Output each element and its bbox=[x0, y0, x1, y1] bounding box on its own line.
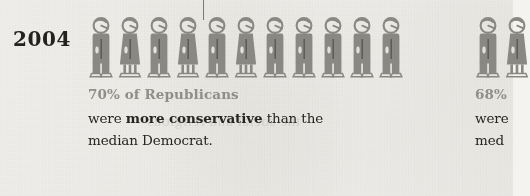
stat-percentage-label: 70% of Republicans bbox=[88, 86, 323, 102]
pictogram-figure-female bbox=[117, 16, 143, 80]
pictogram-figure-female bbox=[233, 16, 259, 80]
desc-suffix: than the bbox=[263, 110, 324, 126]
pictogram-figure-male bbox=[349, 16, 375, 80]
pictogram-figure-male bbox=[204, 16, 230, 80]
pictogram-figure-male bbox=[320, 16, 346, 80]
desc-prefix: were bbox=[88, 110, 126, 126]
stat-percentage-label-next: 68% bbox=[475, 86, 509, 102]
pictogram-figure-male bbox=[378, 16, 404, 80]
stat-description-line-1: were more conservative than the bbox=[88, 107, 323, 129]
desc-emphasis: more conservative bbox=[126, 110, 263, 126]
pictogram-figure-male bbox=[475, 16, 501, 80]
pictogram-figure-male bbox=[146, 16, 172, 80]
pictogram-figure-female bbox=[175, 16, 201, 80]
pictogram-figure-male bbox=[291, 16, 317, 80]
pictogram-figure-male bbox=[88, 16, 114, 80]
stat-block-2004: 70% of Republicans were more conservativ… bbox=[88, 86, 323, 151]
stat-description-next-line-1: were bbox=[475, 107, 509, 129]
stat-description-next-line-2: med bbox=[475, 129, 509, 151]
year-label: 2004 bbox=[13, 27, 71, 51]
pictogram-figure-female bbox=[504, 16, 530, 80]
stat-description-line-2: median Democrat. bbox=[88, 129, 323, 151]
median-marker bbox=[203, 0, 204, 20]
stat-block-next-clipped: 68% were med bbox=[475, 86, 509, 151]
pictogram-figure-male bbox=[262, 16, 288, 80]
